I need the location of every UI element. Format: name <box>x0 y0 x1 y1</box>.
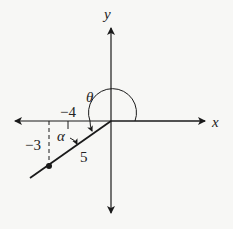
alpha-arrow <box>70 138 77 144</box>
y-axis-label: y <box>102 6 111 22</box>
x-coordinate-label: −4 <box>60 104 76 120</box>
angle-diagram: y x θ −4 −3 α 5 <box>0 0 233 229</box>
theta-label: θ <box>86 89 94 105</box>
alpha-label: α <box>57 128 66 144</box>
theta-arc <box>88 89 136 131</box>
hypotenuse-label: 5 <box>80 149 88 165</box>
terminal-side <box>30 121 111 178</box>
point-marker <box>46 163 52 169</box>
y-coordinate-label: −3 <box>25 137 41 153</box>
x-axis-label: x <box>211 114 219 130</box>
